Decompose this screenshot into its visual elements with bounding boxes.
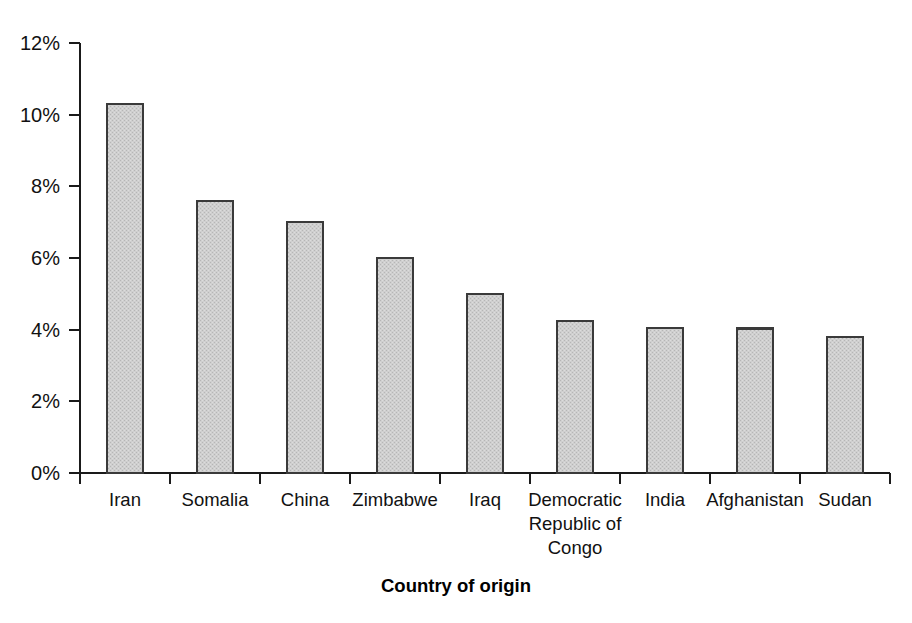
bar: Sudan: 3.8%	[827, 337, 863, 473]
x-axis-category-label: China	[281, 489, 330, 510]
y-axis-tick-label: 4%	[31, 319, 60, 341]
bar: Somalia: 7.6%	[197, 201, 233, 473]
bar: Iran: 10.3%	[107, 104, 143, 473]
bar-chart-figure: 0%2%4%6%8%10%12% Iran: 10.3%Somalia: 7.6…	[0, 0, 912, 623]
x-axis	[80, 473, 890, 484]
x-axis-category-label: Afghanistan	[706, 489, 804, 510]
y-axis-tick-label: 8%	[31, 175, 60, 197]
x-axis-category-label: Iran	[109, 489, 141, 510]
y-axis-tick-label: 0%	[31, 462, 60, 484]
y-axis-tick-label: 10%	[20, 104, 60, 126]
bar: Zimbabwe: 6%	[377, 258, 413, 473]
bar: China: 7%	[287, 222, 323, 473]
x-axis-title: Country of origin	[381, 575, 531, 596]
y-axis-tick-label: 6%	[31, 247, 60, 269]
x-axis-category-label: India	[645, 489, 686, 510]
bar: India: 4.05%	[647, 328, 683, 473]
y-axis-tick-label: 2%	[31, 390, 60, 412]
bar-series: Iran: 10.3%Somalia: 7.6%China: 7%Zimbabw…	[107, 104, 863, 473]
bar: Democratic Republic of Congo: 4.25%	[557, 321, 593, 473]
y-axis: 0%2%4%6%8%10%12%	[20, 32, 80, 484]
x-axis-tick-labels: IranSomaliaChinaZimbabweIraqDemocraticRe…	[109, 489, 872, 558]
x-axis-category-label: Somalia	[182, 489, 250, 510]
bar: Afghanistan: 4.03%	[737, 329, 773, 473]
x-axis-category-label: DemocraticRepublic ofCongo	[528, 489, 622, 558]
x-axis-category-label: Zimbabwe	[352, 489, 437, 510]
x-axis-category-label: Iraq	[469, 489, 501, 510]
bar: Iraq: 5%	[467, 294, 503, 473]
chart-canvas: 0%2%4%6%8%10%12% Iran: 10.3%Somalia: 7.6…	[0, 0, 912, 623]
x-axis-category-label: Sudan	[818, 489, 872, 510]
y-axis-tick-label: 12%	[20, 32, 60, 54]
